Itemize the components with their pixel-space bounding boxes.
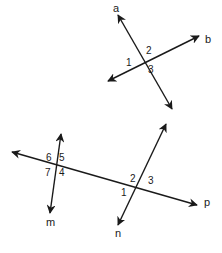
geometry-diagram: ab 123 pmn 6574231 [0,0,222,253]
line-label-p: p [204,196,210,208]
angle-label-1: 1 [121,187,127,198]
angle-label-6: 6 [46,152,52,163]
line-label-m: m [46,216,55,228]
line-n [118,124,166,225]
angle-label-5: 5 [59,152,65,163]
figure-top: ab 123 [108,2,211,109]
line-label-b: b [205,33,211,45]
angle-label-2: 2 [130,173,136,184]
angle-label-3: 3 [148,64,154,75]
line-label-a: a [113,2,120,14]
angle-label-7: 7 [45,167,51,178]
angle-label-1: 1 [126,57,132,68]
angle-label-4: 4 [59,167,65,178]
line-label-n: n [115,227,121,239]
angle-label-3: 3 [148,175,154,186]
figure-bottom: pmn 6574231 [12,124,210,239]
line-p [12,152,197,205]
angle-label-2: 2 [146,45,152,56]
